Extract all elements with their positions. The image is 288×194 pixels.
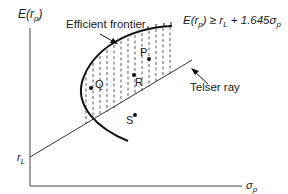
point-q-dot: [89, 86, 93, 90]
point-q-label: Q: [95, 79, 104, 90]
intercept-label: rL: [17, 152, 25, 166]
point-p-label: P: [140, 47, 147, 58]
telser-ray: [30, 60, 192, 157]
frontier-arrow: [100, 34, 118, 44]
feasible-region-hatch: [86, 27, 170, 124]
telser-ray-label: Telser ray: [190, 82, 240, 94]
point-p-dot: [147, 57, 151, 61]
y-axis-label: E(rp): [18, 8, 42, 23]
efficient-frontier-label: Efficient frontier: [66, 19, 146, 31]
point-r-label: R: [135, 77, 143, 88]
x-axis-label: σp: [246, 180, 257, 194]
telser-constraint: E(rp) ≥ rL + 1.645σp: [183, 15, 281, 29]
point-s-label: S: [126, 115, 133, 126]
point-s-dot: [133, 113, 137, 117]
